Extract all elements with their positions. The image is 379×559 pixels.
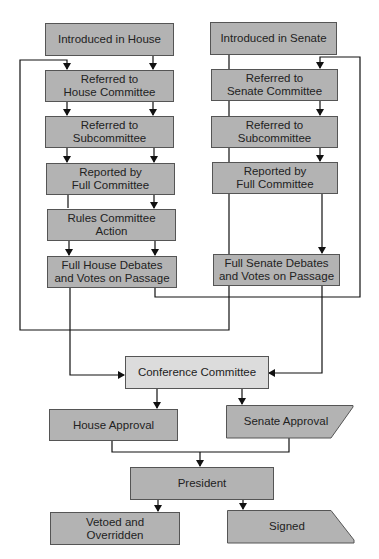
signed-label: Signed	[269, 520, 305, 533]
introduced-in-house-label: Introduced in House	[58, 33, 161, 46]
vetoed-overridden-label-line1: Vetoed and	[86, 516, 144, 528]
senate-subcommittee-box: Referred toSubcommittee	[211, 116, 338, 148]
senate-subcommittee-label: Referred toSubcommittee	[238, 119, 312, 145]
full-senate-debates-box: Full Senate Debatesand Votes on Passage	[213, 254, 340, 286]
house-committee-box: Referred toHouse Committee	[45, 70, 174, 102]
house-reported-box: Reported byFull Committee	[46, 163, 175, 195]
senate-reported-label-line2: Full Committee	[236, 178, 313, 190]
house-reported-label-line2: Full Committee	[72, 179, 149, 191]
house-reported-label-line1: Reported by	[79, 166, 142, 178]
senate-committee-label: Referred toSenate Committee	[227, 72, 322, 98]
introduced-in-senate-box: Introduced in Senate	[210, 22, 337, 55]
full-house-debates-label-line1: Full House Debates	[62, 259, 163, 271]
house-subcommittee-box: Referred toSubcommittee	[45, 116, 174, 148]
senate-reported-label: Reported byFull Committee	[236, 165, 313, 191]
full-house-debates-label: Full House Debatesand Votes on Passage	[54, 259, 169, 285]
conference-committee-box: Conference Committee	[125, 356, 269, 389]
introduced-in-house-box: Introduced in House	[45, 23, 174, 56]
house-approval-box: House Approval	[49, 409, 178, 441]
rules-committee-label-line2: Action	[96, 225, 128, 237]
house-subcommittee-label: Referred toSubcommittee	[73, 119, 147, 145]
house-subcommittee-label-line2: Subcommittee	[73, 132, 147, 144]
house-committee-label-line1: Referred to	[81, 73, 139, 85]
senate-committee-label-line1: Referred to	[246, 72, 304, 84]
introduced-in-senate-label: Introduced in Senate	[220, 32, 326, 45]
signed-label-wrap: Signed	[227, 510, 347, 543]
senate-approval-label-wrap: Senate Approval	[226, 405, 346, 438]
rules-committee-label-line1: Rules Committee	[67, 212, 155, 224]
senate-subcommittee-label-line2: Subcommittee	[238, 132, 312, 144]
house-committee-label-line2: House Committee	[63, 86, 155, 98]
house-reported-label: Reported byFull Committee	[72, 166, 149, 192]
conference-committee-label: Conference Committee	[138, 366, 256, 379]
senate-committee-box: Referred toSenate Committee	[211, 69, 338, 101]
president-box: President	[130, 467, 274, 500]
rules-committee-label: Rules CommitteeAction	[67, 212, 155, 238]
senate-reported-box: Reported byFull Committee	[212, 162, 338, 194]
senate-subcommittee-label-line1: Referred to	[246, 119, 304, 131]
full-house-debates-label-line2: and Votes on Passage	[54, 272, 169, 284]
rules-committee-box: Rules CommitteeAction	[47, 209, 176, 241]
vetoed-overridden-label: Vetoed andOverridden	[86, 516, 144, 542]
president-label: President	[178, 477, 227, 490]
full-senate-debates-label: Full Senate Debatesand Votes on Passage	[219, 257, 334, 283]
senate-reported-label-line1: Reported by	[244, 165, 307, 177]
house-subcommittee-label-line1: Referred to	[81, 119, 139, 131]
full-senate-debates-label-line2: and Votes on Passage	[219, 270, 334, 282]
full-senate-debates-label-line1: Full Senate Debates	[224, 257, 328, 269]
house-committee-label: Referred toHouse Committee	[63, 73, 155, 99]
vetoed-overridden-box: Vetoed andOverridden	[50, 512, 180, 545]
vetoed-overridden-label-line2: Overridden	[87, 529, 144, 541]
house-approval-label: House Approval	[73, 419, 154, 432]
full-house-debates-box: Full House Debatesand Votes on Passage	[47, 256, 177, 288]
senate-committee-label-line2: Senate Committee	[227, 85, 322, 97]
senate-approval-label: Senate Approval	[244, 415, 328, 428]
